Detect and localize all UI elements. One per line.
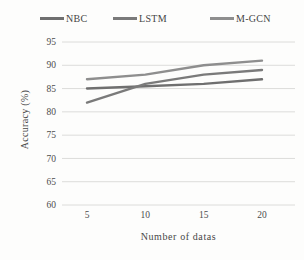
x-tick-label: 5 xyxy=(85,210,90,220)
series-line-m-gcn xyxy=(87,61,262,80)
series-line-nbc xyxy=(87,79,262,88)
y-tick-label: 85 xyxy=(47,84,57,94)
y-tick-label: 70 xyxy=(47,154,57,164)
y-tick-label: 80 xyxy=(47,107,57,117)
y-axis-title: Accuracy (%) xyxy=(19,52,32,188)
y-tick-label: 90 xyxy=(47,60,57,70)
y-tick-label: 95 xyxy=(47,37,57,47)
x-tick-label: 10 xyxy=(141,210,151,220)
plot-svg: 95908580757065605101520 xyxy=(0,0,304,260)
accuracy-line-chart-figure: NBC LSTM M-GCN 95908580757065605101520 A… xyxy=(0,0,304,260)
x-tick-label: 20 xyxy=(257,210,267,220)
x-tick-label: 15 xyxy=(199,210,209,220)
x-axis-title: Number of datas xyxy=(62,231,295,242)
y-tick-label: 65 xyxy=(47,177,57,187)
y-tick-label: 60 xyxy=(47,200,57,210)
y-tick-label: 75 xyxy=(47,130,57,140)
